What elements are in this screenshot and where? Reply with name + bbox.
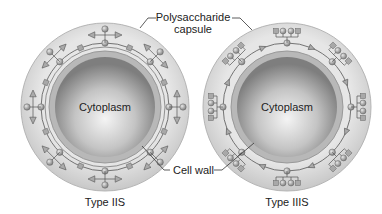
- cytoplasm-label-left: Cytoplasm: [65, 101, 145, 113]
- type-iiis-label: Type IIIS: [247, 196, 327, 208]
- cell-wall-label: Cell wall: [173, 164, 214, 176]
- capsule-label-line1: Polysaccharide: [153, 11, 233, 23]
- cytoplasm-label-right: Cytoplasm: [247, 101, 327, 113]
- capsule-leader-right: [232, 18, 252, 30]
- capsule-label-line2: capsule: [153, 23, 233, 35]
- type-iis-label: Type IIS: [65, 196, 145, 208]
- capsule-label: Polysaccharide capsule: [153, 11, 233, 35]
